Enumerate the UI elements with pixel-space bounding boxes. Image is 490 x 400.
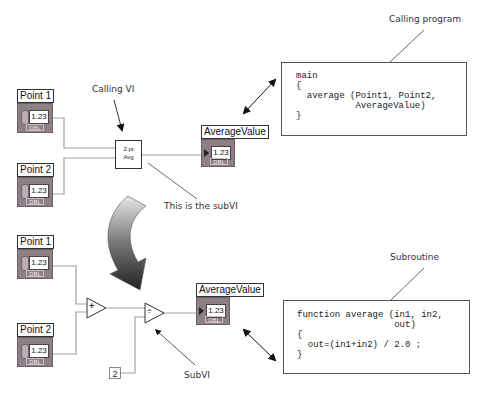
average-value-indicator[interactable]: 1.23 DBL — [201, 139, 235, 167]
code-line: } — [297, 350, 469, 360]
numeric-increment-icon[interactable] — [21, 256, 29, 271]
code-line: { — [296, 81, 466, 91]
divide-function-icon[interactable]: ÷ — [147, 306, 152, 316]
code-line: out=(in1+in2) / 2.0 ; — [297, 340, 469, 350]
dbl-type-tag: DBL — [26, 124, 44, 131]
constant-two[interactable]: 2 — [109, 367, 121, 379]
point1-control[interactable]: 1.23 DBL — [17, 103, 53, 133]
point1-value[interactable]: 1.23 — [29, 110, 49, 124]
subvi-line1: 2 pt — [116, 145, 141, 153]
point2-control[interactable]: 1.23 DBL — [17, 337, 53, 367]
average-value-label: AverageValue — [201, 125, 269, 139]
point1-value[interactable]: 1.23 — [29, 256, 49, 270]
subvi-line2: Avg — [116, 153, 141, 161]
point2-label: Point 2 — [17, 323, 54, 337]
calling-program-annotation: Calling program — [389, 14, 461, 24]
input-terminal-icon — [204, 149, 209, 157]
calling-vi-annotation: Calling VI — [92, 84, 134, 94]
code-line: out) — [297, 320, 469, 330]
subvi-2pt-avg[interactable]: 2 pt Avg — [115, 140, 142, 169]
code-line: main — [296, 71, 466, 81]
numeric-increment-icon[interactable] — [21, 184, 29, 199]
subroutine-annotation: Subroutine — [390, 252, 439, 262]
average-value-label: AverageValue — [196, 283, 264, 297]
dbl-type-tag: DBL — [205, 316, 223, 323]
calling-program-code: main{ average (Point1, Point2, AverageVa… — [281, 62, 467, 136]
code-line: AverageValue) — [296, 101, 466, 111]
point2-value[interactable]: 1.23 — [29, 344, 49, 358]
numeric-increment-icon[interactable] — [21, 344, 29, 359]
point1-label: Point 1 — [17, 89, 54, 103]
this-is-subvi-annotation: This is the subVI — [164, 201, 238, 211]
code-line: } — [296, 111, 466, 121]
subroutine-code: function average (in1, in2, out){ out=(i… — [283, 300, 470, 374]
dbl-type-tag: DBL — [26, 198, 44, 205]
dbl-type-tag: DBL — [26, 270, 44, 277]
subvi-annotation: SubVI — [184, 370, 210, 380]
point1-label: Point 1 — [17, 235, 54, 249]
average-value-indicator[interactable]: 1.23 DBL — [196, 297, 230, 325]
dbl-type-tag: DBL — [26, 358, 44, 365]
add-function-icon[interactable]: + — [89, 301, 94, 311]
point2-control[interactable]: 1.23 DBL — [17, 177, 53, 207]
code-line: average (Point1, Point2, — [296, 91, 466, 101]
code-line: { — [297, 330, 469, 340]
numeric-increment-icon[interactable] — [21, 110, 29, 125]
point2-value[interactable]: 1.23 — [29, 184, 49, 198]
code-line: function average (in1, in2, — [297, 310, 469, 320]
point1-control[interactable]: 1.23 DBL — [17, 249, 53, 279]
input-terminal-icon — [199, 307, 204, 315]
transform-arrow-icon — [108, 196, 146, 290]
point2-label: Point 2 — [17, 163, 54, 177]
dbl-type-tag: DBL — [210, 158, 228, 165]
